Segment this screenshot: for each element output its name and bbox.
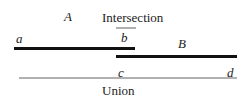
intersection-segment	[116, 27, 136, 29]
intersection-label: Intersection	[102, 11, 163, 24]
point-b-label: b	[121, 31, 128, 44]
union-segment	[19, 77, 237, 79]
union-label: Union	[102, 84, 135, 97]
segment-b	[116, 55, 237, 58]
set-b-label: B	[178, 37, 186, 50]
segment-a	[14, 47, 135, 50]
set-a-label: A	[64, 10, 72, 23]
point-a-label: a	[16, 32, 23, 45]
